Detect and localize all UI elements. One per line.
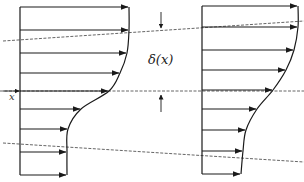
thickness-label: δ(x) (148, 52, 173, 67)
dashed-line-0 (3, 21, 304, 41)
boundary-layer-diagram (0, 0, 304, 182)
x-axis-label: x (9, 91, 15, 102)
right-velocity-profile (202, 6, 298, 174)
